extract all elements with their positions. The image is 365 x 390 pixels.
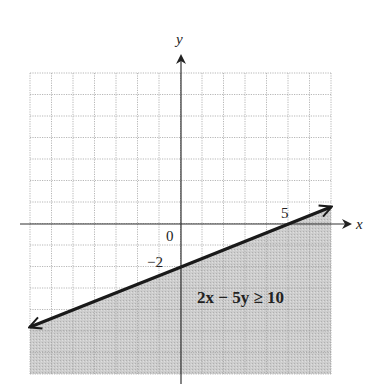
- y-axis-label: y: [174, 31, 183, 47]
- origin-label: 0: [166, 228, 174, 244]
- x-tick-label: 5: [281, 205, 289, 221]
- x-axis-label: x: [355, 216, 363, 232]
- y-tick-label: −2: [147, 254, 163, 270]
- inequality-label: 2x − 5y ≥ 10: [197, 288, 284, 307]
- inequality-graph: y x 0 −2 5 2x − 5y ≥ 10: [0, 0, 365, 390]
